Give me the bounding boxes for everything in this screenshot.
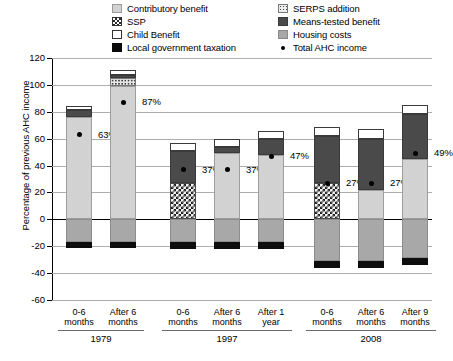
segment-housing-costs bbox=[110, 219, 136, 242]
legend-label: SERPS addition bbox=[293, 4, 360, 14]
bar-column[interactable] bbox=[170, 58, 196, 300]
y-axis-tick bbox=[47, 112, 52, 113]
segment-housing-costs bbox=[258, 219, 284, 242]
segment-housing-costs bbox=[214, 219, 240, 242]
bar-column[interactable] bbox=[358, 58, 384, 300]
y-axis-tick-label: 80 bbox=[34, 107, 45, 117]
segment-ssp bbox=[170, 183, 196, 219]
segment-local-government-taxation bbox=[214, 242, 240, 249]
legend-item-housing-costs: Housing costs bbox=[278, 28, 438, 41]
legend-label: Total AHC income bbox=[293, 43, 367, 53]
serps-addition-swatch-icon bbox=[278, 4, 288, 13]
segment-local-government-taxation bbox=[170, 242, 196, 249]
plot-area: 120100806040200-20-40-6063%87%37%37%47%2… bbox=[52, 58, 432, 300]
legend-label: Child Benefit bbox=[127, 30, 180, 40]
segment-contributory-benefit bbox=[110, 86, 136, 219]
segment-means-tested-benefit bbox=[258, 139, 284, 155]
legend-label: Contributory benefit bbox=[127, 4, 208, 14]
total-ahc-income-dot bbox=[121, 100, 126, 105]
y-axis-tick bbox=[47, 139, 52, 140]
local-government-taxation-swatch-icon bbox=[112, 43, 122, 52]
group-year-label: 1997 bbox=[162, 334, 292, 344]
segment-child-benefit bbox=[214, 139, 240, 147]
segment-housing-costs bbox=[66, 219, 92, 242]
group-rule bbox=[162, 330, 292, 331]
y-axis-tick bbox=[47, 166, 52, 167]
child-benefit-swatch-icon bbox=[112, 30, 122, 39]
legend-label: Housing costs bbox=[293, 30, 351, 40]
total-ahc-income-dot-icon bbox=[278, 43, 288, 52]
legend-label: Means-tested benefit bbox=[293, 17, 380, 27]
y-axis-tick-label: 60 bbox=[34, 134, 45, 144]
segment-local-government-taxation bbox=[66, 242, 92, 247]
y-axis-tick bbox=[47, 219, 52, 220]
segment-local-government-taxation bbox=[358, 261, 384, 268]
segment-housing-costs bbox=[170, 219, 196, 242]
segment-child-benefit bbox=[66, 106, 92, 110]
segment-child-benefit bbox=[170, 143, 196, 151]
total-ahc-income-dot bbox=[413, 151, 418, 156]
y-axis-tick-label: 20 bbox=[34, 187, 45, 197]
y-axis-tick bbox=[47, 58, 52, 59]
legend-item-total-ahc-income: Total AHC income bbox=[278, 41, 438, 54]
chart-legend: Contributory benefit SSP Child Benefit L… bbox=[112, 2, 432, 54]
legend-item-serps-addition: SERPS addition bbox=[278, 2, 438, 15]
segment-contributory-benefit bbox=[402, 159, 428, 220]
segment-contributory-benefit bbox=[358, 190, 384, 220]
segment-ssp bbox=[314, 183, 340, 219]
bar-column[interactable] bbox=[110, 58, 136, 300]
segment-local-government-taxation bbox=[110, 242, 136, 247]
housing-costs-swatch-icon bbox=[278, 30, 288, 39]
bar-column[interactable] bbox=[66, 58, 92, 300]
segment-local-government-taxation bbox=[314, 261, 340, 268]
segment-child-benefit bbox=[402, 105, 428, 114]
segment-means-tested-benefit bbox=[314, 136, 340, 183]
total-ahc-income-dot bbox=[269, 154, 274, 159]
y-axis-tick bbox=[47, 300, 52, 301]
total-ahc-income-label: 47% bbox=[290, 151, 309, 161]
total-ahc-income-dot bbox=[369, 181, 374, 186]
legend-item-child-benefit: Child Benefit bbox=[112, 28, 272, 41]
total-ahc-income-label: 49% bbox=[434, 148, 453, 158]
legend-label: Local government taxation bbox=[127, 43, 236, 53]
segment-contributory-benefit bbox=[214, 153, 240, 219]
means-tested-benefit-swatch-icon bbox=[278, 17, 288, 26]
bar-column[interactable] bbox=[258, 58, 284, 300]
segment-housing-costs bbox=[314, 219, 340, 261]
total-ahc-income-dot bbox=[225, 167, 230, 172]
segment-child-benefit bbox=[314, 127, 340, 136]
y-axis-tick bbox=[47, 85, 52, 86]
gridline bbox=[52, 300, 432, 301]
ssp-swatch-icon bbox=[112, 17, 122, 26]
group-rule bbox=[306, 330, 436, 331]
segment-housing-costs bbox=[358, 219, 384, 261]
y-axis-tick-label: -40 bbox=[31, 268, 45, 278]
y-axis-tick bbox=[47, 273, 52, 274]
bar-column[interactable] bbox=[402, 58, 428, 300]
total-ahc-income-dot bbox=[325, 181, 330, 186]
legend-item-ssp: SSP bbox=[112, 15, 272, 28]
bar-column[interactable] bbox=[214, 58, 240, 300]
bar-column[interactable] bbox=[314, 58, 340, 300]
legend-label: SSP bbox=[127, 17, 146, 27]
segment-child-benefit bbox=[110, 70, 136, 75]
legend-column-left: Contributory benefit SSP Child Benefit L… bbox=[112, 2, 272, 54]
contributory-benefit-swatch-icon bbox=[112, 4, 122, 13]
group-year-label: 1979 bbox=[58, 334, 144, 344]
segment-means-tested-benefit bbox=[66, 110, 92, 117]
group-rule bbox=[58, 330, 144, 331]
segment-serps-addition bbox=[110, 78, 136, 86]
segment-local-government-taxation bbox=[402, 258, 428, 265]
y-axis-tick-label: -60 bbox=[31, 295, 45, 305]
segment-means-tested-benefit bbox=[214, 147, 240, 154]
segment-housing-costs bbox=[402, 219, 428, 258]
y-axis-tick-label: 40 bbox=[34, 161, 45, 171]
y-axis-tick-label: 120 bbox=[29, 53, 45, 63]
total-ahc-income-label: 87% bbox=[142, 97, 161, 107]
y-axis-tick bbox=[47, 246, 52, 247]
legend-item-local-government-taxation: Local government taxation bbox=[112, 41, 272, 54]
y-axis-tick-label: 100 bbox=[29, 80, 45, 90]
legend-item-means-tested-benefit: Means-tested benefit bbox=[278, 15, 438, 28]
segment-means-tested-benefit bbox=[110, 75, 136, 78]
